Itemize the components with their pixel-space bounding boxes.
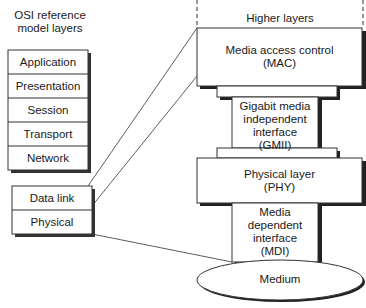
mdi-label-line2: dependent: [232, 219, 318, 232]
mdi-label-line4: (MDI): [232, 245, 318, 258]
osi-layer-session: Session: [8, 104, 88, 117]
osi-layer-data-link: Data link: [12, 192, 92, 205]
mdi-label-line3: interface: [232, 232, 318, 245]
gmii-label-line2: independent: [232, 113, 318, 126]
osi-layer-physical: Physical: [12, 216, 92, 229]
mac-label: Media access control (MAC): [197, 44, 362, 70]
phy-label: Physical layer (PHY): [197, 168, 362, 194]
osi-title-line2: model layers: [0, 22, 100, 35]
mac-label-line1: Media access control: [197, 44, 362, 57]
osi-layer-network: Network: [8, 152, 88, 165]
mac-label-line2: (MAC): [197, 57, 362, 70]
phy-label-line2: (PHY): [197, 181, 362, 194]
gmii-label: Gigabit media independent interface (GMI…: [232, 100, 318, 152]
mdi-label-line1: Media: [232, 206, 318, 219]
osi-layer-transport: Transport: [8, 128, 88, 141]
osi-layer-application: Application: [8, 56, 88, 69]
phy-label-line1: Physical layer: [197, 168, 362, 181]
medium-label: Medium: [197, 273, 363, 286]
mdi-label: Media dependent interface (MDI): [232, 206, 318, 258]
mac-gmii-step: [217, 86, 337, 97]
osi-title-line1: OSI reference: [0, 9, 100, 22]
higher-layers-label: Higher layers: [197, 12, 363, 25]
gmii-label-line3: interface: [232, 126, 318, 139]
gmii-label-line4: (GMII): [232, 139, 318, 152]
osi-layer-presentation: Presentation: [8, 80, 88, 93]
osi-title: OSI reference model layers: [0, 9, 100, 35]
gmii-label-line1: Gigabit media: [232, 100, 318, 113]
